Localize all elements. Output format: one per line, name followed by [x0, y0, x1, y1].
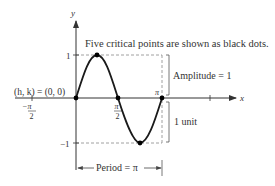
- x-tick-neg-half-pi: −π 2: [22, 102, 36, 121]
- unit-bracket: [166, 102, 169, 142]
- svg-text:−π: −π: [22, 102, 32, 111]
- svg-text:2: 2: [30, 112, 34, 121]
- critical-point-origin: [74, 96, 79, 101]
- period-indicator: Period = π: [78, 160, 162, 176]
- x-axis-label: x: [239, 93, 244, 103]
- y-axis-label: y: [70, 8, 75, 18]
- y-tick-neg1: −1: [60, 139, 70, 149]
- x-tick-pi: π: [155, 88, 160, 97]
- amplitude-bracket: [166, 55, 169, 95]
- critical-point-max: [95, 53, 100, 58]
- axis-ticks: [32, 55, 210, 143]
- svg-text:2: 2: [116, 112, 120, 121]
- period-label: Period = π: [96, 162, 138, 173]
- amplitude-label: Amplitude = 1: [173, 70, 231, 81]
- shift-label: (h, k) = (0, 0): [14, 87, 65, 98]
- critical-point-pi: [160, 96, 165, 101]
- caption: Five critical points are shown as black …: [85, 38, 269, 49]
- y-tick-1: 1: [66, 51, 71, 61]
- unit-label: 1 unit: [174, 116, 197, 127]
- sine-graph-diagram: Five critical points are shown as black …: [0, 0, 275, 186]
- critical-point-half-pi: [116, 96, 121, 101]
- svg-text:π: π: [115, 102, 120, 111]
- critical-point-min: [138, 141, 143, 146]
